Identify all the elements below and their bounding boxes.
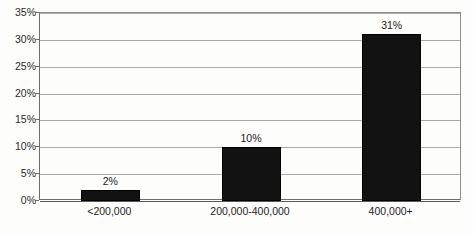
x-axis-labels: <200,000200,000-400,000400,000+: [0, 206, 473, 222]
bar: [362, 34, 421, 201]
x-axis-category-label: 400,000+: [369, 206, 413, 217]
gridline-0%: [40, 201, 460, 202]
bar-value-label: 2%: [103, 176, 118, 187]
gridline-35%: [40, 13, 460, 14]
bar-chart: 0%5%10%15%20%25%30%35% 2%10%31% <200,000…: [0, 0, 473, 236]
plot-area: 2%10%31%: [39, 12, 461, 200]
bar-value-label: 31%: [381, 20, 402, 31]
y-axis-ticks: [0, 12, 39, 200]
x-axis-category-label: 200,000-400,000: [210, 206, 289, 217]
x-axis-category-label: <200,000: [87, 206, 131, 217]
bar-value-label: 10%: [240, 133, 261, 144]
y-axis-tick-mark: [35, 200, 39, 201]
scan-noise-band: [0, 224, 473, 236]
bar: [81, 190, 140, 201]
bar: [222, 147, 281, 201]
